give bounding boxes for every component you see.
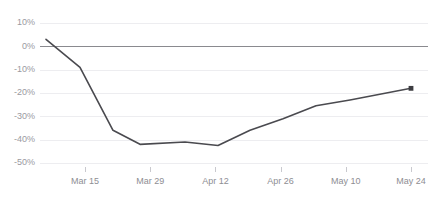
x-axis-tick-label: Apr 26	[267, 176, 294, 186]
x-axis-tick-label: May 10	[331, 176, 361, 186]
x-axis-tick-label: Mar 15	[71, 176, 99, 186]
y-axis-tick-label: -20%	[14, 87, 35, 97]
x-axis-tick-label: May 24	[396, 176, 426, 186]
series-end-marker	[409, 86, 414, 91]
y-axis-tick-label: 10%	[17, 17, 35, 27]
chart-plot-area: 10%0%-10%-20%-30%-40%-50% Mar 15Mar 29Ap…	[0, 0, 433, 197]
y-axis-tick-label: 0%	[22, 41, 35, 51]
line-chart-container: 10%0%-10%-20%-30%-40%-50% Mar 15Mar 29Ap…	[0, 0, 433, 197]
y-axis-tick-label: -30%	[14, 111, 35, 121]
data-series-group	[46, 39, 413, 145]
series-line	[46, 39, 411, 145]
y-axis-tick-label: -50%	[14, 157, 35, 167]
y-axis-tick-label: -10%	[14, 64, 35, 74]
x-axis-tick-label: Apr 12	[202, 176, 229, 186]
x-axis-tick-marks	[86, 167, 412, 172]
y-axis-tick-labels: 10%0%-10%-20%-30%-40%-50%	[14, 17, 35, 167]
x-axis-tick-label: Mar 29	[136, 176, 164, 186]
gridlines-group	[40, 24, 428, 164]
y-axis-tick-label: -40%	[14, 134, 35, 144]
x-axis-tick-labels: Mar 15Mar 29Apr 12Apr 26May 10May 24	[71, 176, 426, 186]
